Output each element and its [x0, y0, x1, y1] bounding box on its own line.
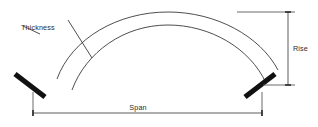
skewback-group — [15, 74, 275, 97]
span-dimension-group — [33, 92, 262, 116]
rise-dimension-group — [237, 12, 295, 85]
rise-label: Rise — [293, 44, 308, 53]
arch-diagram-canvas: Thickness Span Rise — [0, 0, 318, 127]
intrados-arc — [72, 25, 266, 90]
thickness-leader-line — [68, 20, 92, 58]
arch-ring-group — [57, 12, 278, 90]
skewback-left — [15, 74, 45, 97]
thickness-label: Thickness — [21, 23, 55, 32]
arch-diagram-svg: Thickness Span Rise — [0, 0, 318, 127]
extrados-arc — [57, 12, 278, 79]
skewback-right — [245, 74, 275, 97]
span-label: Span — [129, 103, 146, 112]
